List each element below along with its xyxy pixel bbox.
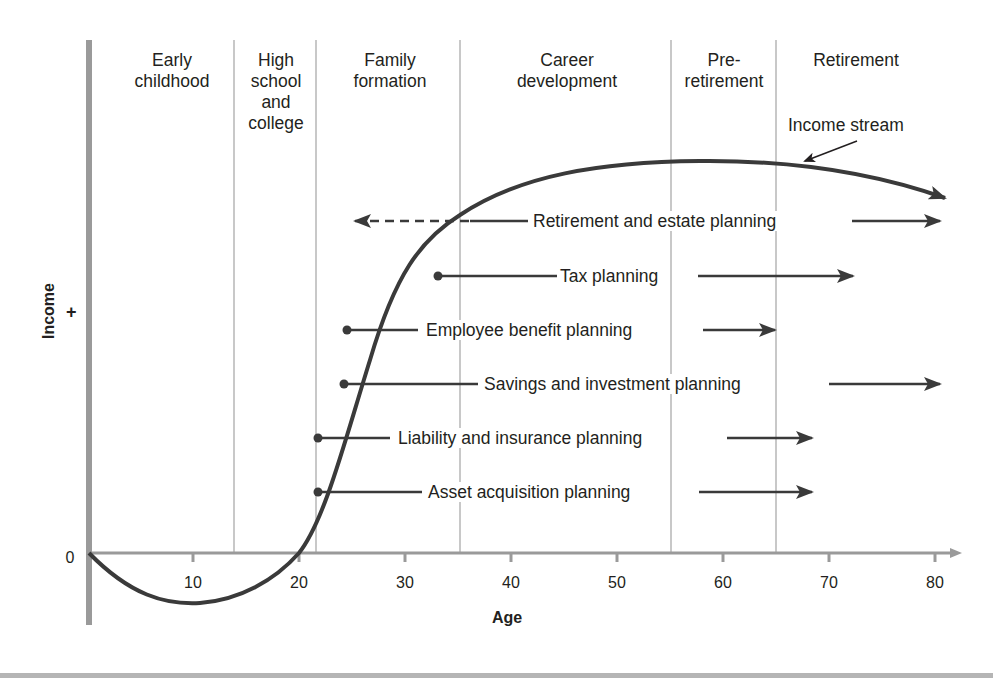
phase-label-pre-retirement: Pre- retirement (671, 50, 777, 92)
x-axis-title: Age (492, 609, 522, 627)
income-stream-pointer (805, 141, 857, 161)
planning-label-retirement-estate: Retirement and estate planning (531, 211, 778, 231)
x-tick-60: 60 (708, 574, 738, 592)
x-tick-20: 20 (284, 574, 314, 592)
y-axis-plus: + (66, 302, 77, 323)
x-tick-10: 10 (178, 574, 208, 592)
x-tick-40: 40 (496, 574, 526, 592)
phase-label-family-formation: Family formation (330, 50, 450, 92)
phase-label-retirement: Retirement (796, 50, 916, 71)
bottom-divider (0, 673, 993, 678)
financial-life-cycle-figure: Early childhood High school and college … (0, 0, 993, 678)
phase-label-early-childhood: Early childhood (122, 50, 222, 92)
x-axis (89, 548, 962, 562)
planning-label-savings-investment: Savings and investment planning (482, 374, 743, 394)
income-stream-label: Income stream (788, 115, 904, 136)
planning-label-liability-insurance: Liability and insurance planning (396, 428, 644, 448)
x-tick-70: 70 (814, 574, 844, 592)
planning-label-tax: Tax planning (558, 266, 660, 286)
y-axis-zero: 0 (60, 549, 80, 567)
y-axis (86, 40, 92, 625)
planning-label-employee-benefit: Employee benefit planning (424, 320, 634, 340)
x-tick-80: 80 (920, 574, 950, 592)
y-axis-title: Income (40, 281, 58, 341)
planning-label-asset-acquisition: Asset acquisition planning (426, 482, 632, 502)
phase-label-career-development: Career development (492, 50, 642, 92)
x-tick-30: 30 (390, 574, 420, 592)
phase-label-high-school-college: High school and college (236, 50, 316, 134)
x-tick-50: 50 (602, 574, 632, 592)
